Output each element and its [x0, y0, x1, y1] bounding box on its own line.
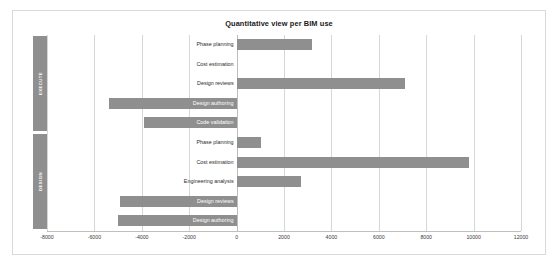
- x-tick-label: -6000: [88, 234, 101, 240]
- bar: [237, 137, 262, 148]
- category-label: Phase planning: [193, 39, 236, 50]
- chart-row: Design reviews: [47, 74, 521, 94]
- x-tick-label: 2000: [278, 234, 290, 240]
- bar: [237, 78, 405, 89]
- category-label: Code validation: [193, 117, 236, 128]
- chart-row: Design reviews: [47, 192, 521, 212]
- phase-group-rail: EXECUTEDESIGN: [33, 35, 48, 231]
- chart-card: Quantitative view per BIM use EXECUTEDES…: [12, 10, 546, 255]
- x-tick-label: 8000: [420, 234, 432, 240]
- group-label-design: DESIGN: [33, 134, 48, 229]
- category-label: Design reviews: [194, 196, 237, 207]
- category-label: Design reviews: [194, 78, 237, 89]
- chart-row: Code validation: [47, 113, 521, 133]
- x-tick-label: 0: [235, 234, 238, 240]
- x-axis-tick-labels: -8000-6000-4000-200002000400060008000100…: [47, 234, 521, 246]
- category-label: Design authoring: [190, 98, 237, 109]
- chart-row: Phase planning: [47, 133, 521, 153]
- x-tick-label: -8000: [40, 234, 53, 240]
- x-tick-label: 6000: [373, 234, 385, 240]
- x-tick-label: -2000: [183, 234, 196, 240]
- bar: [237, 176, 301, 187]
- category-label: Phase planning: [193, 137, 236, 148]
- gridline: [521, 35, 522, 231]
- category-label: Engineering analysis: [181, 176, 237, 187]
- x-tick-label: 12000: [514, 234, 528, 240]
- chart-row: Cost estimation: [47, 55, 521, 75]
- x-axis-line: [47, 231, 521, 232]
- chart-title: Quantitative view per BIM use: [13, 19, 545, 28]
- category-label: Cost estimation: [193, 157, 236, 168]
- chart-row: Engineering analysis: [47, 172, 521, 192]
- chart-row: Design authoring: [47, 94, 521, 114]
- group-label-execute: EXECUTE: [33, 36, 48, 131]
- x-tick-label: 10000: [466, 234, 480, 240]
- x-tick-label: -4000: [135, 234, 148, 240]
- bar: [237, 157, 469, 168]
- group-label-text: DESIGN: [38, 172, 43, 191]
- category-label: Design authoring: [190, 215, 237, 226]
- chart-row: Design authoring: [47, 211, 521, 231]
- group-label-text: EXECUTE: [38, 72, 43, 95]
- category-label: Cost estimation: [193, 59, 236, 70]
- x-tick-label: 4000: [326, 234, 338, 240]
- plot-area: Phase planningCost estimationDesign revi…: [47, 35, 521, 231]
- chart-row: Phase planning: [47, 35, 521, 55]
- bar: [237, 39, 313, 50]
- chart-row: Cost estimation: [47, 153, 521, 173]
